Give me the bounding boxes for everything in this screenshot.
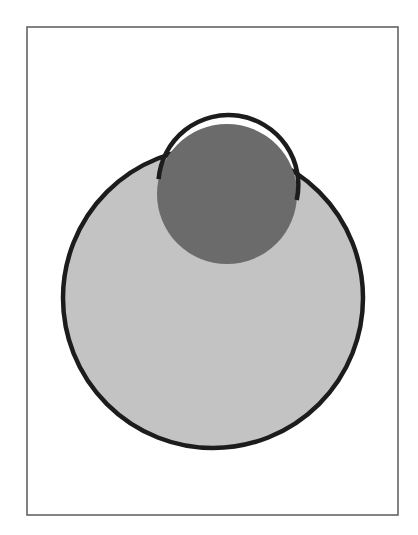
small-circle: [157, 124, 297, 264]
overlapping-circles-diagram: [0, 0, 418, 535]
figure-canvas: [0, 0, 418, 535]
